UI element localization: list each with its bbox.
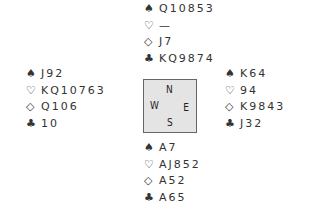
- diamond-icon: ◇: [144, 34, 159, 51]
- west-diamonds-row: ◇ Q106: [26, 99, 106, 116]
- south-spades: A7: [159, 140, 178, 157]
- spade-icon: ♠: [144, 1, 159, 18]
- west-diamonds: Q106: [41, 99, 79, 116]
- club-icon: ♣: [225, 116, 240, 133]
- north-hand: ♠ Q10853 ♡ — ◇ J7 ♣ KQ9874: [144, 1, 215, 67]
- south-clubs: A65: [159, 190, 187, 207]
- south-clubs-row: ♣ A65: [144, 190, 201, 207]
- west-spades-row: ♠ J92: [26, 66, 106, 83]
- east-hearts: 94: [240, 83, 258, 100]
- heart-icon: ♡: [26, 83, 41, 100]
- north-diamonds: J7: [159, 34, 173, 51]
- west-clubs-row: ♣ 10: [26, 116, 106, 133]
- east-clubs: J32: [240, 116, 263, 133]
- diamond-icon: ◇: [225, 99, 240, 116]
- north-spades-row: ♠ Q10853: [144, 1, 215, 18]
- east-diamonds: K9843: [240, 99, 285, 116]
- north-spades: Q10853: [159, 1, 215, 18]
- compass-south: S: [167, 117, 173, 128]
- east-diamonds-row: ◇ K9843: [225, 99, 285, 116]
- north-clubs-row: ♣ KQ9874: [144, 51, 215, 68]
- south-hearts-row: ♡ AJ852: [144, 157, 201, 174]
- compass-box: N W E S: [143, 79, 197, 133]
- south-hearts: AJ852: [159, 157, 201, 174]
- compass-east: E: [183, 102, 189, 113]
- east-clubs-row: ♣ J32: [225, 116, 285, 133]
- west-hearts: KQ10763: [41, 83, 106, 100]
- north-hearts: —: [159, 18, 172, 35]
- west-spades: J92: [41, 66, 64, 83]
- heart-icon: ♡: [144, 18, 159, 35]
- club-icon: ♣: [144, 51, 159, 68]
- east-hearts-row: ♡ 94: [225, 83, 285, 100]
- south-diamonds: A52: [159, 173, 187, 190]
- heart-icon: ♡: [225, 83, 240, 100]
- club-icon: ♣: [26, 116, 41, 133]
- spade-icon: ♠: [144, 140, 159, 157]
- east-spades-row: ♠ K64: [225, 66, 285, 83]
- north-hearts-row: ♡ —: [144, 18, 215, 35]
- south-spades-row: ♠ A7: [144, 140, 201, 157]
- south-diamonds-row: ◇ A52: [144, 173, 201, 190]
- spade-icon: ♠: [26, 66, 41, 83]
- diamond-icon: ◇: [26, 99, 41, 116]
- west-clubs: 10: [41, 116, 59, 133]
- west-hearts-row: ♡ KQ10763: [26, 83, 106, 100]
- west-hand: ♠ J92 ♡ KQ10763 ◇ Q106 ♣ 10: [26, 66, 106, 132]
- north-clubs: KQ9874: [159, 51, 215, 68]
- south-hand: ♠ A7 ♡ AJ852 ◇ A52 ♣ A65: [144, 140, 201, 206]
- east-spades: K64: [240, 66, 267, 83]
- club-icon: ♣: [144, 190, 159, 207]
- east-hand: ♠ K64 ♡ 94 ◇ K9843 ♣ J32: [225, 66, 285, 132]
- compass-west: W: [150, 100, 159, 111]
- spade-icon: ♠: [225, 66, 240, 83]
- north-diamonds-row: ◇ J7: [144, 34, 215, 51]
- compass-north: N: [166, 84, 173, 95]
- heart-icon: ♡: [144, 157, 159, 174]
- diamond-icon: ◇: [144, 173, 159, 190]
